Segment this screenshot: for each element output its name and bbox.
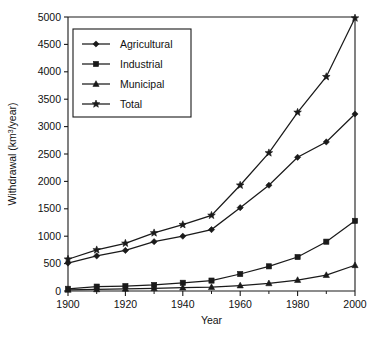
data-point-agricultural [122,247,128,253]
series-line-agricultural [68,114,355,263]
x-tick-label: 1940 [171,298,195,310]
x-axis-title: Year [201,314,223,326]
data-point-total [323,73,331,80]
x-tick-label: 1980 [286,298,310,310]
data-point-industrial [324,239,329,244]
data-point-industrial [352,218,357,223]
y-tick-label: 3000 [38,120,62,132]
x-tick-label: 1920 [114,298,138,310]
water-withdrawal-chart: 0500100015002000250030003500400045005000… [0,0,380,338]
y-axis-title: Withdrawal (km3/year) [6,102,18,205]
x-tick-label: 1960 [229,298,253,310]
x-tick-label: 2000 [343,298,367,310]
y-tick-label: 1000 [38,230,62,242]
y-tick-label: 500 [43,257,61,269]
data-point-total [179,221,187,228]
data-point-agricultural [180,233,186,239]
y-tick-label: 4000 [38,65,62,77]
data-point-municipal [352,262,358,268]
data-point-industrial [266,264,271,269]
legend-label-industrial: Industrial [120,58,163,70]
y-tick-label: 1500 [38,202,62,214]
data-point-industrial [209,278,214,283]
data-point-industrial [295,254,300,259]
x-tick-label: 1900 [56,298,80,310]
y-tick-label: 2500 [38,148,62,160]
data-point-total [93,246,101,253]
data-point-industrial [238,271,243,276]
legend-label-total: Total [120,98,142,110]
legend-label-agricultural: Agricultural [120,38,173,50]
chart-canvas: 0500100015002000250030003500400045005000… [0,0,380,338]
y-tick-label: 4500 [38,38,62,50]
data-point-agricultural [94,253,100,259]
y-tick-label: 5000 [38,11,62,23]
y-tick-label: 3500 [38,93,62,105]
data-point-agricultural [151,239,157,245]
data-point-total [150,229,158,236]
legend-marker-industrial [93,61,98,66]
y-tick-label: 2000 [38,175,62,187]
y-tick-label: 0 [55,285,61,297]
data-point-total [122,239,130,246]
legend-label-municipal: Municipal [120,78,164,90]
